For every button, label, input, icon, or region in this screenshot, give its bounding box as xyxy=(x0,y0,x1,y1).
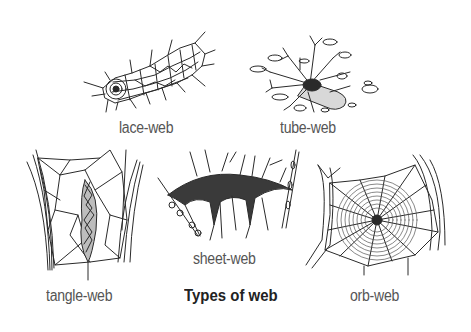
sheet-web-label: sheet-web xyxy=(193,250,256,268)
lace-web-illustration xyxy=(84,32,215,112)
orb-web-illustration xyxy=(306,155,445,275)
tube-web-illustration xyxy=(250,36,378,112)
tangle-web-illustration xyxy=(27,150,143,280)
tube-web-label: tube-web xyxy=(280,119,336,137)
sheet-web-illustration xyxy=(158,150,299,240)
types-of-web-figure xyxy=(0,0,471,332)
orb-web-label: orb-web xyxy=(350,287,399,305)
tangle-web-label: tangle-web xyxy=(46,287,112,305)
figure-title: Types of web xyxy=(184,286,278,306)
web-illustrations xyxy=(0,0,471,332)
lace-web-label: lace-web xyxy=(119,119,173,137)
